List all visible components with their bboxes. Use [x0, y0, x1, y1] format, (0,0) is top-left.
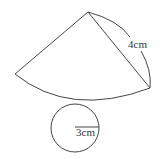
- sector-left-radius: [15, 12, 88, 74]
- slant-length-label: 4cm: [128, 38, 147, 50]
- sector-arc: [15, 74, 150, 100]
- diagram-canvas: 4cm 3cm: [0, 0, 160, 159]
- sector-right-radius: [88, 12, 150, 88]
- slant-dimension-arc-upper: [88, 12, 130, 37]
- cone-net-diagram: 4cm 3cm: [0, 0, 160, 159]
- base-radius-label: 3cm: [76, 126, 95, 138]
